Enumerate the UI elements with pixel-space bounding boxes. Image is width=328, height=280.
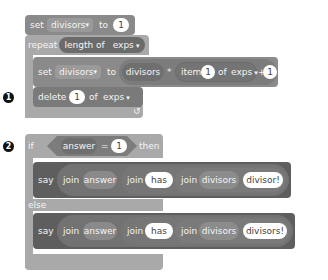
annotation-badge-1: 1	[3, 92, 14, 103]
say-keyword: say	[38, 225, 54, 237]
join-label: join	[127, 174, 143, 186]
set-keyword: set	[38, 66, 52, 78]
say-keyword: say	[38, 174, 54, 186]
answer-reporter[interactable]: answer	[83, 171, 117, 189]
set-variable-block-2[interactable]: set divisors to divisors * item 1 of exp…	[33, 57, 278, 87]
equals-operator: =	[101, 140, 109, 152]
list-dropdown[interactable]: exps	[113, 39, 140, 52]
has-text-input[interactable]: has	[145, 223, 173, 239]
set-variable-block[interactable]: set divisors to 1	[25, 15, 135, 35]
say-block-2[interactable]: say join answer join has join divisors d…	[33, 213, 295, 249]
delete-keyword: delete	[38, 91, 66, 103]
index-input[interactable]: 1	[69, 90, 85, 104]
divisors-reporter[interactable]: divisors	[122, 63, 164, 81]
join-label: join	[127, 225, 143, 237]
length-of-label: length of	[64, 39, 104, 51]
if-else-footer	[25, 254, 163, 270]
suffix-text-input[interactable]: divisor!	[243, 172, 283, 188]
else-section: else	[25, 199, 163, 211]
set-keyword: set	[30, 19, 44, 31]
of-label: of	[89, 91, 98, 103]
then-label: then	[139, 140, 159, 152]
else-keyword: else	[28, 199, 46, 211]
length-of-reporter[interactable]: length of exps	[59, 37, 145, 53]
divisors-reporter[interactable]: divisors	[199, 171, 239, 189]
of-label: of	[218, 66, 227, 78]
answer-reporter[interactable]: answer	[83, 222, 117, 240]
annotation-badge-2: 2	[3, 141, 14, 152]
delete-item-block[interactable]: delete 1 of exps	[33, 87, 143, 107]
if-else-block[interactable]: if answer = 1 then	[25, 134, 163, 158]
if-keyword: if	[28, 140, 34, 152]
repeat-keyword: repeat	[28, 39, 57, 51]
item-label: item	[181, 66, 201, 78]
to-label: to	[99, 19, 108, 31]
list-dropdown[interactable]: exps	[103, 91, 130, 104]
variable-dropdown[interactable]: divisors	[47, 18, 93, 32]
join-label: join	[181, 225, 197, 237]
value-input[interactable]: 1	[113, 18, 129, 32]
variable-dropdown[interactable]: divisors	[55, 65, 101, 79]
if-else-arm	[25, 158, 33, 268]
item-index-input[interactable]: 1	[201, 65, 215, 79]
list-dropdown[interactable]: exps	[231, 66, 258, 79]
plus-value-input[interactable]: 1	[263, 65, 277, 79]
join-label: join	[63, 225, 79, 237]
say-block-1[interactable]: say join answer join has join divisors d…	[33, 162, 291, 198]
divisors-reporter[interactable]: divisors	[199, 222, 239, 240]
join-label: join	[63, 174, 79, 186]
times-operator: *	[167, 66, 172, 78]
join-label: join	[181, 174, 197, 186]
compare-value-input[interactable]: 1	[111, 139, 127, 153]
answer-reporter[interactable]: answer	[61, 138, 97, 154]
to-label: to	[107, 66, 116, 78]
repeat-block[interactable]: repeat length of exps	[25, 35, 149, 55]
has-text-input[interactable]: has	[145, 172, 173, 188]
suffix-text-input[interactable]: divisors!	[243, 223, 287, 239]
